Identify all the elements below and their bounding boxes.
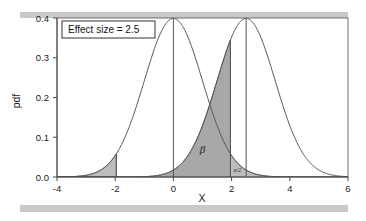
statistical-power-figure: -4-20246 0.00.10.20.30.4 X pdf β α/2 Eff… [0,0,366,221]
y-axis-title: pdf [10,94,22,109]
plot-canvas: -4-20246 0.00.10.20.30.4 X pdf β α/2 Eff… [0,0,366,221]
y-axis-tick-labels: 0.00.10.20.30.4 [36,13,49,183]
x-tick-label: -4 [53,183,61,194]
y-tick-label: 0.0 [36,172,49,183]
alpha-region-label: α/2 [234,167,242,173]
x-tick-label: 2 [229,183,234,194]
y-tick-label: 0.3 [36,52,49,63]
y-tick-label: 0.4 [36,13,49,24]
effect-size-annotation-text: Effect size = 2.5 [68,24,140,35]
y-tick-label: 0.1 [36,132,49,143]
beta-region-label: β [199,143,206,155]
x-tick-label: 4 [287,183,292,194]
x-tick-label: 6 [345,183,350,194]
x-tick-label: -2 [111,183,119,194]
y-tick-label: 0.2 [36,92,49,103]
x-tick-label: 0 [171,183,176,194]
x-axis-title: X [198,192,205,204]
